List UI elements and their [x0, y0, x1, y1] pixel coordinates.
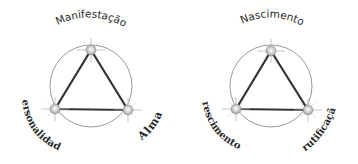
- left-bottom-right-node-icon: [114, 98, 142, 122]
- left-bottom-left-label: Personalidade: [0, 0, 63, 152]
- left-triangle: [55, 50, 128, 110]
- left-top-label: Manifestação: [53, 7, 129, 29]
- diagram-canvas: Manifestação Personalidade Alma Nascimen…: [0, 0, 358, 164]
- right-top-label: Nascimento: [238, 7, 306, 27]
- right-top-node-icon: [257, 39, 285, 63]
- left-bottom-right-label: Alma: [135, 108, 166, 143]
- right-triangle: [236, 51, 308, 110]
- right-bottom-right-node-icon: [294, 98, 322, 122]
- left-top-node-icon: [77, 38, 105, 62]
- right-bottom-left-node-icon: [222, 97, 250, 121]
- left-triad-diagram: Manifestação Personalidade Alma: [0, 0, 166, 152]
